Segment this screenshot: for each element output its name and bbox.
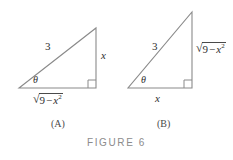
figure-caption: FIGURE 6 (0, 138, 233, 148)
panel-label-a: (A) (51, 119, 65, 129)
triangle-a-vertical-side-label: x (101, 50, 106, 61)
radical-sign-icon: √ (196, 42, 203, 54)
panel-label-b: (B) (157, 119, 170, 129)
triangle-a-shape (19, 28, 96, 88)
triangle-a-outline (19, 28, 96, 88)
radicand-exponent: 2 (221, 42, 225, 50)
figure-container: 3 θ x √ 9−x2 3 θ √ 9−x2 x (A) (B) FIGURE… (0, 0, 233, 160)
triangle-b-horizontal-side-label: x (155, 93, 160, 104)
triangle-b-outline (128, 12, 192, 88)
radical-sign-icon: √ (33, 93, 40, 105)
triangle-a-horizontal-side-label: √ 9−x2 (33, 93, 63, 107)
triangle-b-radicand: 9−x2 (202, 42, 226, 56)
triangle-b-shape (128, 12, 192, 88)
triangle-a-radicand: 9−x2 (39, 93, 63, 107)
triangle-b-right-angle-marker (184, 80, 192, 88)
triangle-b-angle-theta-label: θ (141, 75, 146, 85)
triangle-a-hypotenuse-label: 3 (45, 41, 51, 52)
triangle-a-angle-theta-label: θ (33, 75, 38, 85)
triangle-b-hypotenuse-label: 3 (152, 41, 158, 52)
radicand-exponent: 2 (58, 93, 62, 101)
triangle-a-right-angle-marker (88, 80, 96, 88)
triangle-b-vertical-side-label: √ 9−x2 (196, 42, 226, 56)
